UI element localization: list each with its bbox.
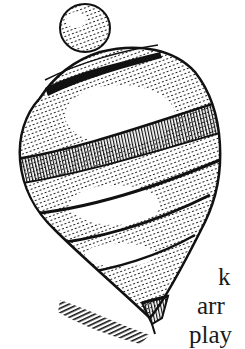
text-fragment-line: play bbox=[189, 320, 232, 349]
text-fragment-line: k bbox=[218, 262, 231, 291]
top-knob bbox=[60, 4, 110, 52]
text-fragment-line: arr bbox=[197, 291, 225, 320]
